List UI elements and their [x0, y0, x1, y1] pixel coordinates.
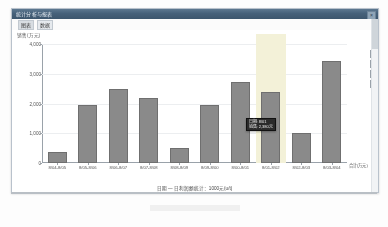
x-axis-tick-label: 8/03-8/04: [317, 165, 348, 170]
x-axis-tick-label: 8/05-8/06: [73, 165, 104, 170]
plot-region: 01,0002,0003,0004,000 8/04-8/058/05-8/06…: [42, 44, 347, 163]
x-axis-tick-mark: [179, 163, 180, 165]
x-axis-tick-label: 8/01-8/02: [256, 165, 287, 170]
chart-area: 销售(万元) 01,0002,0003,0004,000 8/04-8/058/…: [12, 30, 378, 191]
bar[interactable]: [322, 61, 341, 163]
bar[interactable]: [109, 89, 128, 163]
x-axis-end-label: 合计(万元): [349, 163, 368, 168]
footer-placeholder: [150, 205, 240, 211]
bar-series: [42, 44, 347, 163]
bar-slot[interactable]: [103, 44, 134, 163]
x-axis-tick-label: 8/00-8/01: [225, 165, 256, 170]
bar-slot[interactable]: [164, 44, 195, 163]
window-titlebar[interactable]: 统计分析与报表 ×: [12, 9, 378, 19]
x-axis-tick-mark: [149, 163, 150, 165]
bar[interactable]: [200, 105, 219, 163]
x-axis-tick-mark: [57, 163, 58, 165]
bar-slot[interactable]: [42, 44, 73, 163]
x-axis-tick-label: 8/09-8/00: [195, 165, 226, 170]
bar[interactable]: [170, 148, 189, 163]
tab-data[interactable]: 数据: [37, 20, 53, 30]
bar-slot[interactable]: [134, 44, 165, 163]
tab-chart[interactable]: 图表: [18, 20, 34, 30]
bar-slot[interactable]: [317, 44, 348, 163]
bar[interactable]: [139, 98, 158, 163]
bar-slot[interactable]: [73, 44, 104, 163]
tooltip-line-2: 销售: 2,380元: [249, 125, 273, 130]
window-bottom-edge: [11, 192, 377, 194]
x-axis-tick-mark: [271, 163, 272, 165]
x-axis-tick-label: 8/04-8/05: [42, 165, 73, 170]
x-axis-tick-mark: [88, 163, 89, 165]
bar[interactable]: [48, 152, 67, 163]
x-axis-tick-mark: [240, 163, 241, 165]
y-axis-tick-mark: [40, 163, 42, 164]
x-axis-tick-label: 8/07-8/08: [134, 165, 165, 170]
bar-slot[interactable]: [256, 44, 287, 163]
bar[interactable]: [78, 105, 97, 163]
x-axis-tick-label: 8/06-8/07: [103, 165, 134, 170]
x-axis-tick-mark: [210, 163, 211, 165]
x-axis-tick-label: 8/08-8/09: [164, 165, 195, 170]
x-axis-tick-mark: [118, 163, 119, 165]
bar-slot[interactable]: [286, 44, 317, 163]
chart-window: 统计分析与报表 × 图表 数据 销售(万元) 01,0002,0003,0004…: [11, 8, 379, 193]
vertical-scrollbar[interactable]: [371, 19, 378, 192]
x-axis-tick-label: 8/02-8/03: [286, 165, 317, 170]
screenshot-root: 统计分析与报表 × 图表 数据 销售(万元) 01,0002,0003,0004…: [0, 0, 388, 227]
scrollbar-thumb[interactable]: [372, 19, 378, 49]
window-title: 统计分析与报表: [16, 11, 52, 17]
chart-tooltip: 日期: 8/01 销售: 2,380元: [246, 118, 276, 131]
y-axis-unit-label: 销售(万元): [17, 33, 40, 38]
bar-slot[interactable]: [195, 44, 226, 163]
bar-slot[interactable]: [225, 44, 256, 163]
x-axis-tick-mark: [332, 163, 333, 165]
bar[interactable]: [292, 133, 311, 163]
x-axis-tick-mark: [301, 163, 302, 165]
